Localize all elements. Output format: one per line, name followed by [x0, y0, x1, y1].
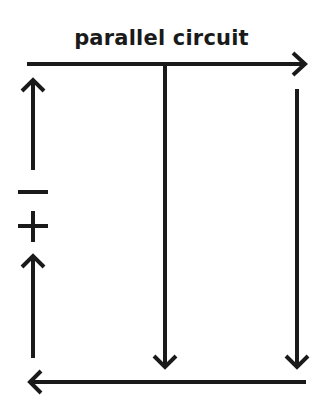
circuit-diagram — [0, 0, 323, 409]
branch-1-arrow — [154, 64, 176, 367]
battery-side-upper-arrow — [22, 80, 44, 170]
battery-side-lower-arrow — [22, 256, 44, 358]
branch-2-arrow — [286, 89, 308, 367]
battery-positive-icon — [18, 211, 48, 242]
bottom-wire-arrow — [30, 371, 306, 393]
